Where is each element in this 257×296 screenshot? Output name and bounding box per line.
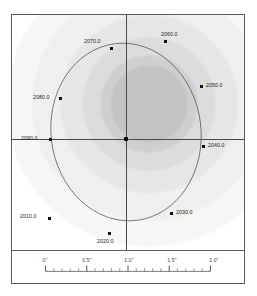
scale-tick-label-0: 0" — [43, 257, 48, 263]
epoch-label-2070: 2070.0 — [84, 38, 100, 44]
epoch-marker — [59, 97, 62, 100]
epoch-marker — [200, 85, 203, 88]
scale-tick-label-2.0: 2.0" — [209, 257, 219, 263]
scale-tick-label-1.5: 1.5" — [167, 257, 177, 263]
epoch-marker — [110, 47, 113, 50]
epoch-marker — [48, 217, 51, 220]
scale-tick-label-0.5: 0.5" — [82, 257, 92, 263]
epoch-label-2010: 2010.0 — [20, 213, 36, 219]
epoch-marker — [170, 212, 173, 215]
scale-tick-label-1.0: 1.0" — [124, 257, 134, 263]
figure-root: 2010.0 2020.0 2030.0 2040.0 2050.0 2060.… — [0, 0, 257, 296]
epoch-label-2090: 2090.0 — [21, 135, 37, 141]
scale-ruler-svg — [12, 251, 244, 283]
orbit-plot-panel: 2010.0 2020.0 2030.0 2040.0 2050.0 2060.… — [11, 14, 245, 251]
epoch-label-2020: 2020.0 — [97, 238, 113, 244]
epoch-label-2080: 2080.0 — [33, 94, 49, 100]
epoch-label-2040: 2040.0 — [208, 142, 224, 148]
epoch-label-2060: 2060.0 — [161, 31, 177, 37]
orbit-ellipse-path — [41, 35, 212, 230]
epoch-marker — [49, 138, 52, 141]
scale-bar-panel: 0" 0.5" 1.0" 1.5" 2.0" — [11, 251, 245, 284]
epoch-marker — [202, 145, 205, 148]
primary-star-marker — [124, 137, 128, 141]
epoch-marker — [164, 40, 167, 43]
orbit-ellipse-svg — [12, 15, 244, 250]
plot-inner: 2010.0 2020.0 2030.0 2040.0 2050.0 2060.… — [12, 15, 244, 250]
epoch-label-2030: 2030.0 — [176, 209, 192, 215]
epoch-marker — [108, 232, 111, 235]
epoch-label-2050: 2050.0 — [206, 82, 222, 88]
